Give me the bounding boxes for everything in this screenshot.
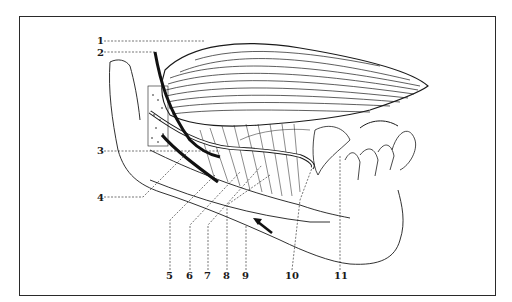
label-2: 2 [97, 48, 104, 58]
label-9: 9 [242, 271, 249, 281]
label-6: 6 [186, 271, 193, 281]
label-4: 4 [97, 193, 104, 203]
label-3: 3 [97, 146, 104, 156]
teeth [313, 121, 416, 180]
label-8: 8 [223, 271, 230, 281]
label-5: 5 [166, 271, 173, 281]
label-7: 7 [204, 271, 211, 281]
label-1: 1 [97, 36, 104, 46]
mandible-outline [109, 60, 403, 264]
anatomical-illustration [0, 0, 512, 302]
duct [150, 112, 313, 168]
muscle-mass [162, 44, 428, 126]
label-11: 11 [334, 271, 348, 281]
arrow-icon [253, 218, 272, 233]
label-10: 10 [285, 271, 299, 281]
